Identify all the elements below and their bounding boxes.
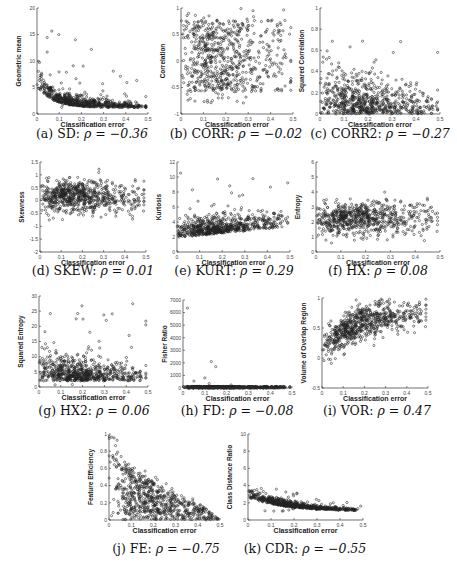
correlation-value: ρ = −0.36 — [84, 126, 148, 141]
x-tick-label: 0.5 — [437, 254, 444, 260]
x-tick-label: 0.5 — [437, 116, 444, 122]
y-tick-label: 3 — [311, 204, 314, 210]
scatter-plot-h: 00.10.20.30.40.5010002000300040005000600… — [183, 300, 292, 388]
y-tick-label: 0 — [178, 385, 181, 391]
scatter-panel-h: 00.10.20.30.40.5010002000300040005000600… — [183, 300, 292, 388]
x-tick-label: 0 — [39, 254, 42, 260]
data-points — [40, 168, 145, 221]
y-axis-label: Squared Entropy — [17, 315, 25, 368]
x-axis-label: Classification error — [343, 395, 407, 402]
y-tick-label: 0 — [32, 111, 35, 117]
correlation-value: ρ = −0.75 — [156, 541, 220, 556]
y-tick-label: 5 — [311, 174, 314, 180]
caption-g: (g) HX2: ρ = 0.06 — [14, 403, 174, 418]
y-tick-label: 5000 — [170, 322, 181, 328]
y-tick-label: 6000 — [170, 309, 181, 315]
y-tick-label: 1000 — [170, 372, 181, 378]
y-tick-label: 25 — [31, 308, 37, 314]
y-tick-label: 0.8 — [311, 26, 318, 32]
y-tick-label: 0 — [317, 355, 320, 361]
y-tick-label: 4 — [172, 219, 175, 225]
caption-c: (c) CORR2: ρ = −0.27 — [300, 126, 457, 141]
caption-label: (c) CORR2: — [310, 126, 386, 141]
y-tick-label: 4000 — [170, 335, 181, 341]
x-tick-label: 0.1 — [341, 116, 348, 122]
scatter-panel-i: 00.10.20.30.40.5-0.500.51Classification … — [322, 298, 428, 388]
data-points — [36, 30, 147, 109]
y-tick-label: 5 — [34, 369, 37, 375]
axes — [177, 162, 290, 252]
x-tick-label: 0.4 — [412, 254, 419, 260]
caption-label: (g) HX2: — [38, 403, 96, 418]
scatter-plot-c: 00.10.20.30.40.500.20.40.60.81Classifica… — [320, 8, 440, 114]
correlation-value: ρ = −0.55 — [302, 541, 366, 556]
y-tick-label: 10 — [240, 431, 246, 437]
data-points — [316, 191, 439, 244]
y-tick-label: 4 — [243, 482, 246, 488]
y-axis-label: Geometric mean — [15, 36, 22, 87]
y-tick-label: 1 — [315, 5, 318, 11]
x-tick-label: 0 — [180, 116, 183, 122]
y-tick-label: 0.5 — [172, 31, 179, 37]
caption-a: (a) SD: ρ = −0.36 — [12, 126, 172, 141]
y-tick-label: -1 — [34, 223, 39, 229]
caption-label: (f) HX: — [328, 263, 374, 278]
caption-d: (d) SKEW: ρ = 0.01 — [13, 263, 173, 278]
y-tick-label: -0.5 — [170, 84, 179, 90]
y-tick-label: 1.5 — [31, 159, 38, 165]
y-tick-label: 0.2 — [311, 90, 318, 96]
y-tick-label: 0 — [34, 384, 37, 390]
data-points — [182, 307, 291, 389]
y-tick-label: 1 — [176, 5, 179, 11]
scatter-panel-f: 00.10.20.30.40.50123456Classification er… — [316, 162, 440, 252]
scatter-panel-b: 00.10.20.30.40.5-1-0.500.51Classificatio… — [181, 8, 293, 114]
y-tick-label: 7000 — [170, 297, 181, 303]
x-axis-label: Classification error — [206, 395, 270, 402]
scatter-panel-g: 00.10.20.30.40.5051015202530Classificati… — [39, 296, 148, 387]
y-axis-label: Kurtosis — [155, 193, 162, 220]
caption-b: (b) CORR: ρ = −0.02 — [156, 126, 316, 141]
y-tick-label: -0.5 — [29, 210, 38, 216]
x-tick-label: 0.1 — [337, 254, 344, 260]
x-tick-label: 0 — [247, 522, 250, 528]
y-tick-label: 0 — [172, 249, 175, 255]
data-points — [180, 8, 292, 105]
y-tick-label: -1.5 — [29, 236, 38, 242]
x-tick-label: 0 — [108, 522, 111, 528]
y-tick-label: 0.4 — [311, 68, 318, 74]
scatter-plot-d: 00.10.20.30.40.5-2-1.5-1-0.500.511.5Clas… — [40, 162, 146, 252]
scatter-plot-a: 00.10.20.30.40.505101520Classification e… — [37, 8, 148, 114]
y-tick-label: 4 — [311, 189, 314, 195]
caption-label: (j) FE: — [112, 541, 156, 556]
correlation-value: ρ = −0.27 — [386, 126, 450, 141]
correlation-value: ρ = −0.08 — [229, 403, 293, 418]
caption-label: (k) CDR: — [244, 541, 302, 556]
x-tick-label: 0.5 — [145, 389, 152, 395]
y-tick-label: 2000 — [170, 360, 181, 366]
scatter-panel-a: 00.10.20.30.40.505101520Classification e… — [37, 8, 148, 114]
y-axis-label: Volume of Overlap Region — [300, 303, 308, 384]
caption-label: (h) FD: — [181, 403, 230, 418]
correlation-value: ρ = 0.01 — [101, 263, 155, 278]
scatter-panel-e: 00.10.20.30.40.5024681012Classification … — [177, 162, 290, 252]
scatter-plot-e: 00.10.20.30.40.5024681012Classification … — [177, 162, 290, 252]
y-axis-label: Correlation — [159, 44, 166, 79]
correlation-value: ρ = 0.47 — [377, 403, 431, 418]
y-tick-label: 30 — [31, 293, 37, 299]
data-points — [176, 172, 289, 238]
scatter-plot-i: 00.10.20.30.40.5-0.500.51Classification … — [322, 298, 428, 388]
y-axis-label: Class Distance Ratio — [226, 445, 233, 509]
y-tick-label: 10 — [169, 174, 175, 180]
y-tick-label: 20 — [31, 323, 37, 329]
x-tick-label: 0.4 — [413, 116, 420, 122]
y-tick-label: 0.8 — [100, 448, 107, 454]
caption-label: (a) SD: — [36, 126, 84, 141]
x-tick-label: 0.5 — [217, 522, 224, 528]
scatter-plot-b: 00.10.20.30.40.5-1-0.500.51Classificatio… — [181, 8, 293, 114]
y-tick-label: 0 — [104, 517, 107, 523]
y-tick-label: 0.6 — [311, 47, 318, 53]
caption-h: (h) FD: ρ = −0.08 — [157, 403, 317, 418]
y-tick-label: 2 — [311, 219, 314, 225]
y-tick-label: 0.4 — [100, 482, 107, 488]
y-tick-label: 8 — [243, 448, 246, 454]
